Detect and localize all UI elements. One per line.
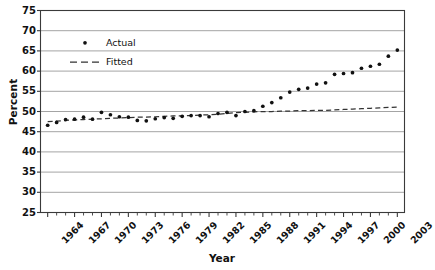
legend-label-fitted: Fitted: [106, 56, 133, 67]
legend-label-actual: Actual: [106, 37, 136, 48]
